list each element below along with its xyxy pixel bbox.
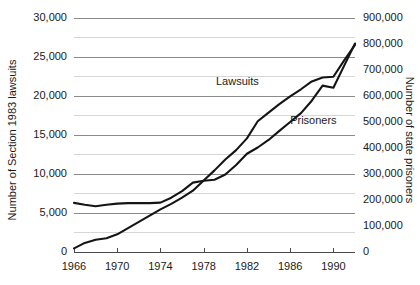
series-lines xyxy=(74,44,355,249)
y-axis-left-tick-label: 30,000 xyxy=(33,11,67,23)
y-axis-right-tick-label: 100,000 xyxy=(363,219,403,231)
y-axis-right-tick-label: 200,000 xyxy=(363,193,403,205)
series-label-prisoners: Prisoners xyxy=(290,114,337,126)
y-axis-right-tick-label: 900,000 xyxy=(363,11,403,23)
y-axis-left-tick-label: 20,000 xyxy=(33,89,67,101)
y-axis-right-tick-label: 600,000 xyxy=(363,89,403,101)
x-axis-tick-label: 1974 xyxy=(148,260,172,272)
series-annotations: LawsuitsPrisoners xyxy=(216,75,337,126)
tick-marks xyxy=(75,248,334,253)
series-line-lawsuits xyxy=(74,45,355,249)
chart-container: 05,00010,00015,00020,00025,00030,000 010… xyxy=(0,0,420,285)
y-axis-left-tick-label: 15,000 xyxy=(33,128,67,140)
y-axis-right-tick-label: 400,000 xyxy=(363,141,403,153)
y-axis-left-tick-label: 0 xyxy=(61,245,67,257)
x-axis-tick-label: 1966 xyxy=(62,260,86,272)
series-label-lawsuits: Lawsuits xyxy=(216,75,259,87)
y-axis-right-tick-labels: 0100,000200,000300,000400,000500,000600,… xyxy=(363,11,403,257)
y-axis-left-tick-label: 5,000 xyxy=(39,206,67,218)
y-axis-left-tick-label: 10,000 xyxy=(33,167,67,179)
y-axis-right-tick-label: 300,000 xyxy=(363,167,403,179)
y-axis-right-tick-label: 500,000 xyxy=(363,115,403,127)
x-axis-tick-labels: 1966197019741978198219861990 xyxy=(62,260,346,272)
x-axis-tick-label: 1978 xyxy=(191,260,215,272)
y-axis-right-tick-label: 0 xyxy=(363,245,369,257)
y-axis-right-title: Number of state prisoners xyxy=(404,77,416,204)
x-axis-tick-label: 1982 xyxy=(235,260,259,272)
y-axis-right-tick-label: 700,000 xyxy=(363,63,403,75)
x-axis-tick-label: 1970 xyxy=(105,260,129,272)
y-axis-left-tick-labels: 05,00010,00015,00020,00025,00030,000 xyxy=(33,11,67,257)
dual-axis-line-chart: 05,00010,00015,00020,00025,00030,000 010… xyxy=(0,0,420,285)
y-axis-left-title: Number of Section 1983 lawsuits xyxy=(6,59,18,220)
x-axis-tick-label: 1986 xyxy=(278,260,302,272)
y-axis-left-tick-label: 25,000 xyxy=(33,50,67,62)
x-axis-tick-label: 1990 xyxy=(321,260,345,272)
y-axis-right-tick-label: 800,000 xyxy=(363,37,403,49)
